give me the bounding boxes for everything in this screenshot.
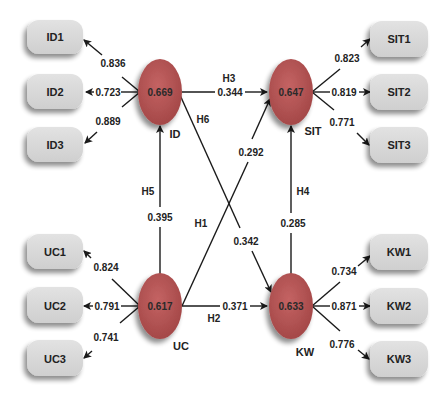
path-h1-coefficient: 0.292 bbox=[238, 147, 263, 158]
indicator-id1-label: ID1 bbox=[46, 31, 63, 43]
indicator-sit1[interactable]: SIT1 bbox=[370, 21, 428, 57]
indicator-sit3[interactable]: SIT3 bbox=[370, 127, 428, 163]
path-h2-hypothesis: H2 bbox=[208, 313, 221, 324]
indicator-uc1[interactable]: UC1 bbox=[27, 234, 83, 269]
indicator-id3[interactable]: ID3 bbox=[27, 127, 83, 162]
path-h6-line bbox=[180, 95, 240, 228]
indicator-kw3[interactable]: KW3 bbox=[370, 341, 428, 377]
path-h3-hypothesis: H3 bbox=[223, 73, 236, 84]
measurement-paths-uc: 0.824 0.791 0.741 bbox=[84, 251, 140, 358]
loading-sit1: 0.823 bbox=[334, 53, 359, 64]
path-h1-hypothesis: H1 bbox=[195, 218, 208, 229]
indicator-sit2[interactable]: SIT2 bbox=[370, 74, 428, 110]
loading-sit3: 0.771 bbox=[329, 117, 354, 128]
indicator-kw2[interactable]: KW2 bbox=[370, 288, 428, 324]
construct-id-label: ID bbox=[170, 128, 181, 140]
construct-sit-r2: 0.647 bbox=[278, 87, 303, 98]
construct-sit[interactable]: 0.647 SIT bbox=[269, 59, 322, 137]
indicator-kw3-label: KW3 bbox=[387, 353, 411, 365]
loading-kw3: 0.776 bbox=[329, 339, 354, 350]
path-h4-hypothesis: H4 bbox=[297, 186, 310, 197]
indicator-id3-label: ID3 bbox=[46, 139, 63, 151]
loading-id2: 0.723 bbox=[95, 87, 120, 98]
indicator-uc2[interactable]: UC2 bbox=[27, 287, 83, 323]
indicator-uc1-label: UC1 bbox=[44, 246, 66, 258]
indicator-uc3-label: UC3 bbox=[44, 353, 66, 365]
loading-uc2: 0.791 bbox=[94, 301, 119, 312]
construct-kw-label: KW bbox=[296, 346, 315, 358]
indicator-sit1-label: SIT1 bbox=[387, 33, 410, 45]
loading-id1: 0.836 bbox=[100, 58, 125, 69]
path-h2-coefficient: 0.371 bbox=[222, 301, 247, 312]
path-h4-coefficient: 0.285 bbox=[280, 218, 305, 229]
loading-uc1: 0.824 bbox=[93, 262, 118, 273]
path-h1-line bbox=[182, 162, 248, 306]
loading-uc3: 0.741 bbox=[93, 332, 118, 343]
indicator-uc2-label: UC2 bbox=[44, 300, 66, 312]
structural-model-diagram: H3 0.344 H6 0.342 H1 0.292 H2 0.371 H5 0… bbox=[0, 0, 446, 400]
construct-sit-label: SIT bbox=[304, 125, 321, 137]
loading-sit2: 0.819 bbox=[331, 87, 356, 98]
path-h6-arrow bbox=[252, 251, 271, 292]
path-h6-coefficient: 0.342 bbox=[233, 236, 258, 247]
indicator-sit3-label: SIT3 bbox=[387, 139, 410, 151]
construct-kw[interactable]: 0.633 KW bbox=[269, 273, 315, 358]
construct-id-r2: 0.669 bbox=[147, 87, 172, 98]
construct-uc[interactable]: 0.617 UC bbox=[138, 273, 189, 352]
indicator-id2[interactable]: ID2 bbox=[27, 74, 83, 109]
measurement-paths-id: 0.836 0.723 0.889 bbox=[84, 40, 140, 143]
indicator-kw1[interactable]: KW1 bbox=[370, 234, 428, 270]
path-h5-hypothesis: H5 bbox=[142, 186, 155, 197]
loading-kw2: 0.871 bbox=[331, 301, 356, 312]
construct-uc-r2: 0.617 bbox=[147, 301, 172, 312]
loading-id3: 0.889 bbox=[95, 116, 120, 127]
indicator-sit2-label: SIT2 bbox=[387, 86, 410, 98]
measurement-paths-kw: 0.734 0.871 0.776 bbox=[312, 256, 370, 359]
path-h6-hypothesis: H6 bbox=[197, 114, 210, 125]
indicator-kw1-label: KW1 bbox=[387, 246, 411, 258]
construct-kw-r2: 0.633 bbox=[278, 301, 303, 312]
indicator-id1[interactable]: ID1 bbox=[27, 20, 83, 54]
construct-uc-label: UC bbox=[173, 340, 189, 352]
indicator-kw2-label: KW2 bbox=[387, 300, 411, 312]
indicator-id2-label: ID2 bbox=[46, 86, 63, 98]
path-h1-arrow bbox=[252, 99, 270, 139]
path-h3-coefficient: 0.344 bbox=[217, 87, 242, 98]
indicator-uc3[interactable]: UC3 bbox=[27, 340, 83, 376]
loading-kw1: 0.734 bbox=[331, 266, 356, 277]
path-h5-coefficient: 0.395 bbox=[147, 212, 172, 223]
